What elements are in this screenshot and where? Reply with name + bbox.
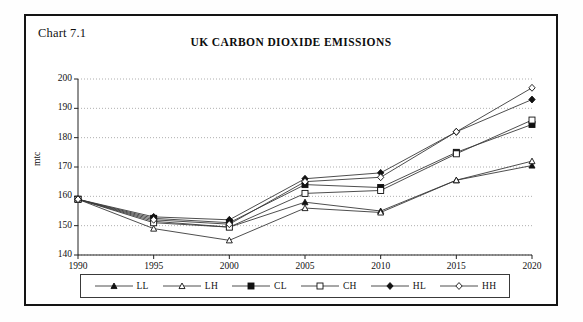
legend-item-ll: LL — [94, 280, 149, 292]
x-tick-label: 2000 — [209, 261, 249, 271]
legend-item-hl: HL — [370, 280, 426, 292]
open-square-icon — [300, 280, 340, 292]
open-diamond-icon — [439, 280, 479, 292]
y-tick-label: 160 — [44, 190, 72, 200]
x-tick-label: 2015 — [436, 261, 476, 271]
legend-label: CH — [343, 281, 357, 291]
filled-diamond-icon — [370, 280, 410, 292]
legend-label: HL — [413, 281, 426, 291]
x-tick-label: 2020 — [512, 261, 552, 271]
y-tick-label: 200 — [44, 73, 72, 83]
legend-item-hh: HH — [439, 280, 496, 292]
legend-label: LH — [205, 281, 218, 291]
legend-item-ch: CH — [300, 280, 357, 292]
page-canvas: Chart 7.1 UK CARBON DIOXIDE EMISSIONS mt… — [0, 0, 583, 322]
y-tick-label: 190 — [44, 102, 72, 112]
y-tick-label: 180 — [44, 132, 72, 142]
legend-label: CL — [274, 281, 287, 291]
x-tick-label: 2005 — [285, 261, 325, 271]
chart-legend: LLLHCLCHHLHH — [80, 274, 510, 298]
y-tick-label: 140 — [44, 249, 72, 259]
legend-item-cl: CL — [231, 280, 287, 292]
open-triangle-icon — [162, 280, 202, 292]
x-tick-label: 1990 — [58, 261, 98, 271]
filled-triangle-icon — [94, 280, 134, 292]
x-tick-label: 2010 — [361, 261, 401, 271]
y-tick-label: 150 — [44, 220, 72, 230]
filled-square-icon — [231, 280, 271, 292]
legend-label: HH — [482, 281, 496, 291]
legend-label: LL — [137, 281, 149, 291]
legend-item-lh: LH — [162, 280, 218, 292]
y-tick-label: 170 — [44, 161, 72, 171]
plot-area: mtc 140150160170180190200199019952000200… — [26, 16, 556, 304]
x-tick-label: 1995 — [134, 261, 174, 271]
chart-figure-frame: Chart 7.1 UK CARBON DIOXIDE EMISSIONS mt… — [24, 14, 558, 306]
